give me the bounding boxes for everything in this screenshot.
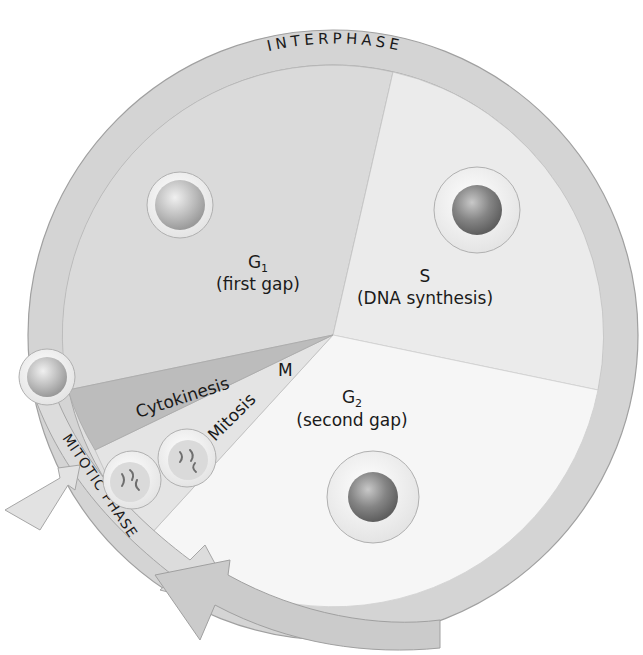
cell-cycle-diagram: INTERPHASE MITOTIC PHASE G1 (first gap) … — [0, 0, 643, 655]
s-name: S — [420, 266, 431, 286]
s-description: (DNA synthesis) — [357, 288, 493, 308]
g1-name: G — [248, 252, 261, 272]
cell-g2 — [327, 451, 419, 543]
label-m: M — [278, 360, 293, 380]
g2-name: G — [342, 387, 355, 407]
g1-description: (first gap) — [216, 274, 300, 294]
cell-s — [434, 167, 520, 253]
cell-g1 — [147, 172, 213, 238]
g2-description: (second gap) — [296, 410, 407, 430]
cell-daughter-ring — [19, 349, 75, 405]
